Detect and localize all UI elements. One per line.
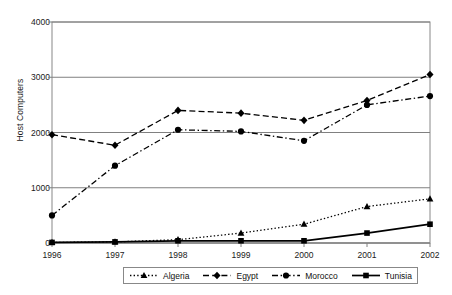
legend-label: Egypt — [236, 271, 258, 281]
x-tick-label: 1999 — [232, 250, 251, 260]
legend-label: Algeria — [163, 271, 189, 281]
legend-item-morocco: Morocco — [271, 270, 338, 281]
x-tick-label: 1997 — [106, 250, 125, 260]
x-tick-label: 1996 — [43, 250, 62, 260]
legend-key-diamond-icon — [202, 270, 232, 281]
x-tick-label: 2002 — [421, 250, 440, 260]
legend-item-egypt: Egypt — [202, 270, 258, 281]
legend-key-square-icon — [351, 270, 381, 281]
legend-item-algeria: Algeria — [129, 270, 189, 281]
legend-label: Tunisia — [385, 271, 412, 281]
x-tick-label: 2000 — [295, 250, 314, 260]
legend-key-triangle-icon — [129, 270, 159, 281]
legend-key-circle-icon — [271, 270, 301, 281]
legend-label: Morocco — [305, 271, 338, 281]
host-computers-line-chart: Host Computers 01000200030004000 1996199… — [0, 0, 452, 295]
chart-legend: AlgeriaEgyptMoroccoTunisia — [123, 267, 418, 284]
x-tick-label: 1998 — [169, 250, 188, 260]
legend-item-tunisia: Tunisia — [351, 270, 412, 281]
plot-area — [0, 0, 452, 295]
x-tick-label: 2001 — [358, 250, 377, 260]
